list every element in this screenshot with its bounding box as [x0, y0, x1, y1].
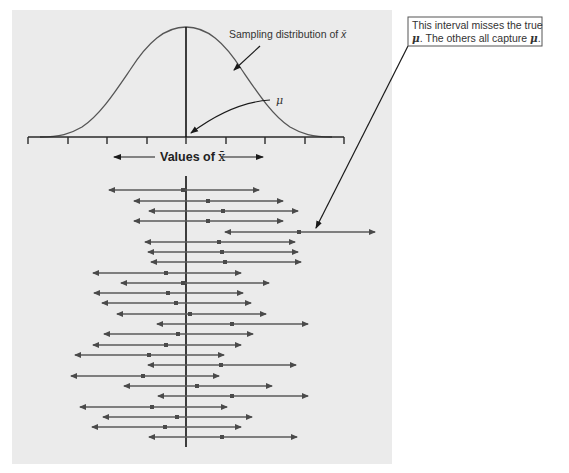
mu-label: μ [276, 94, 283, 107]
interval-center-dot [175, 415, 179, 419]
interval-center-dot [195, 384, 199, 388]
interval-center-dot [297, 230, 301, 234]
confidence-interval-diagram: Sampling distribution of x̄ μ Values of … [0, 0, 569, 473]
interval-center-dot [230, 322, 234, 326]
interval-center-dot [164, 271, 168, 275]
axis-label: Values of x̄ [160, 149, 225, 164]
interval-center-dot [188, 312, 192, 316]
interval-center-dot [174, 301, 178, 305]
interval-center-dot [176, 332, 180, 336]
interval-center-dot [166, 291, 170, 295]
interval-center-dot [181, 281, 185, 285]
interval-center-dot [206, 199, 210, 203]
curve-label: Sampling distribution of x̄ [229, 28, 347, 40]
interval-center-dot [181, 188, 185, 192]
callout-line-2: μ. The others all capture μ. [412, 32, 541, 44]
interval-center-dot [147, 353, 151, 357]
interval-center-dot [206, 219, 210, 223]
interval-center-dot [217, 240, 221, 244]
interval-center-dot [230, 394, 234, 398]
interval-center-dot [220, 435, 224, 439]
interval-center-dot [220, 250, 224, 254]
interval-center-dot [163, 425, 167, 429]
interval-center-dot [150, 405, 154, 409]
callout-line-1: This interval misses the true [412, 19, 543, 31]
interval-center-dot [221, 209, 225, 213]
interval-center-dot [141, 374, 145, 378]
interval-center-dot [164, 343, 168, 347]
interval-center-dot [219, 363, 223, 367]
interval-center-dot [223, 260, 227, 264]
